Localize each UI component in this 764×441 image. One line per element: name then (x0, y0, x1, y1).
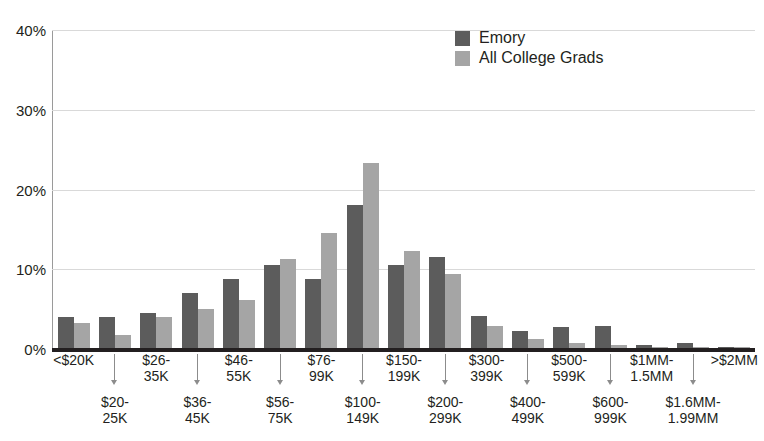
bar-emory (553, 327, 569, 349)
bar-groups (53, 30, 755, 349)
x-axis-tick-text: $56- 75K (243, 394, 317, 426)
x-axis-tick-text: $46- 55K (202, 352, 276, 384)
bar-grads (363, 163, 379, 349)
x-label-connector-arrow-icon (445, 354, 446, 380)
bar-group (259, 30, 300, 349)
bar-emory (264, 265, 280, 349)
x-axis-tick-label: $400- 499K (491, 394, 565, 426)
bar-group (425, 30, 466, 349)
x-axis-tick-text: $1MM- 1.5MM (615, 352, 689, 384)
y-axis-tick-label: 30% (16, 103, 46, 118)
x-axis-tick-label: $300- 399K (450, 352, 524, 384)
bar-emory (99, 317, 115, 349)
y-axis-tick-label: 20% (16, 183, 46, 198)
y-axis-tick-label: 40% (16, 23, 46, 38)
bar-emory (595, 326, 611, 349)
x-label-connector-arrow-icon (197, 354, 198, 380)
bar-group (383, 30, 424, 349)
legend-item: Emory (455, 30, 604, 46)
bar-group (94, 30, 135, 349)
bar-group (53, 30, 94, 349)
bar-group (631, 30, 672, 349)
income-distribution-chart: 40%30%20%10%0% EmoryAll College Grads <$… (0, 0, 764, 441)
bar-grads (239, 300, 255, 349)
x-axis-tick-text: $1.6MM- 1.99MM (656, 394, 730, 426)
x-axis-tick-label: $200- 299K (408, 394, 482, 426)
bar-grads (280, 259, 296, 349)
x-label-connector-arrow-icon (527, 354, 528, 380)
bar-grads (321, 233, 337, 349)
bar-grads (156, 317, 172, 349)
x-axis-tick-label: $150- 199K (367, 352, 441, 384)
x-axis-tick-text: <$20K (37, 352, 111, 368)
bar-group (301, 30, 342, 349)
x-axis-tick-label: $1.6MM- 1.99MM (656, 394, 730, 426)
x-axis-tick-label: >$2MM (697, 352, 764, 368)
y-axis-tick-label: 10% (16, 262, 46, 277)
bar-group (177, 30, 218, 349)
x-axis-tick-label: $1MM- 1.5MM (615, 352, 689, 384)
x-axis-tick-text: >$2MM (697, 352, 764, 368)
bar-group (549, 30, 590, 349)
bar-grads (74, 323, 90, 349)
x-axis-tick-label: $20- 25K (78, 394, 152, 426)
x-label-connector-arrow-icon (114, 354, 115, 380)
x-axis-tick-label: $56- 75K (243, 394, 317, 426)
bar-group (507, 30, 548, 349)
bar-grads (487, 326, 503, 349)
x-label-connector-arrow-icon (362, 354, 363, 380)
bar-group (466, 30, 507, 349)
x-axis-tick-label: <$20K (37, 352, 111, 368)
bar-emory (388, 265, 404, 349)
x-axis-tick-text: $200- 299K (408, 394, 482, 426)
x-axis-tick-label: $76- 99K (284, 352, 358, 384)
bar-emory (182, 293, 198, 349)
bar-grads (115, 335, 131, 349)
legend-label: All College Grads (479, 50, 604, 66)
bar-grads (404, 251, 420, 349)
bar-group (714, 30, 755, 349)
chart-legend: EmoryAll College Grads (455, 30, 604, 66)
bar-group (342, 30, 383, 349)
bar-emory (223, 279, 239, 349)
bar-emory (512, 331, 528, 349)
x-axis-tick-label: $600- 999K (573, 394, 647, 426)
bar-emory (347, 205, 363, 349)
x-axis-tick-text: $20- 25K (78, 394, 152, 426)
x-axis-tick-text: $400- 499K (491, 394, 565, 426)
legend-item: All College Grads (455, 50, 604, 66)
bar-group (672, 30, 713, 349)
x-label-connector-arrow-icon (693, 354, 694, 380)
bar-emory (429, 257, 445, 350)
bar-grads (198, 309, 214, 349)
bar-emory (471, 316, 487, 349)
x-axis-tick-text: $76- 99K (284, 352, 358, 384)
x-axis-tick-label: $100- 149K (326, 394, 400, 426)
x-axis-tick-text: $150- 199K (367, 352, 441, 384)
x-axis-tick-text: $600- 999K (573, 394, 647, 426)
bar-grads (445, 274, 461, 349)
legend-label: Emory (479, 30, 525, 46)
y-axis-labels: 40%30%20%10%0% (0, 0, 52, 360)
x-axis-tick-text: $500- 599K (532, 352, 606, 384)
legend-swatch-icon (455, 31, 470, 46)
x-label-connector-arrow-icon (610, 354, 611, 380)
bar-emory (58, 317, 74, 349)
x-axis-tick-label: $36- 45K (161, 394, 235, 426)
x-axis-tick-text: $300- 399K (450, 352, 524, 384)
legend-swatch-icon (455, 51, 470, 66)
x-axis-labels: <$20K$20- 25K$26- 35K$36- 45K$46- 55K$56… (52, 352, 755, 441)
bar-emory (305, 279, 321, 349)
x-axis-tick-text: $100- 149K (326, 394, 400, 426)
bar-emory (140, 313, 156, 349)
x-axis-tick-label: $26- 35K (119, 352, 193, 384)
x-axis-tick-label: $500- 599K (532, 352, 606, 384)
x-axis-tick-text: $36- 45K (161, 394, 235, 426)
x-label-connector-arrow-icon (280, 354, 281, 380)
x-axis-tick-text: $26- 35K (119, 352, 193, 384)
bar-group (136, 30, 177, 349)
bar-group (218, 30, 259, 349)
x-axis-tick-label: $46- 55K (202, 352, 276, 384)
bar-group (590, 30, 631, 349)
plot-area (52, 30, 755, 349)
